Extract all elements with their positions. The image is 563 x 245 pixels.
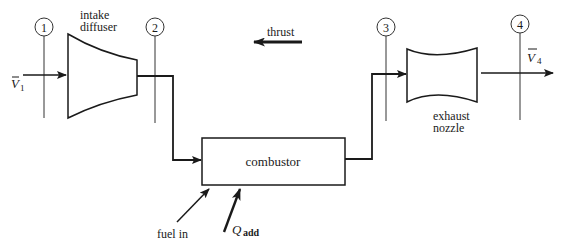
intake-diffuser: intake diffuser (68, 8, 137, 118)
exhaust-nozzle: exhaust nozzle (407, 48, 477, 135)
station-2: 2 (146, 18, 164, 123)
v4-subscript: 4 (537, 56, 542, 66)
q-subscript: add (243, 227, 260, 238)
heat-addition: Q add (224, 189, 260, 238)
nozzle-shape (407, 48, 477, 102)
diffuser-label-line2: diffuser (80, 20, 117, 34)
q-symbol: Q (232, 222, 242, 237)
fuel-label: fuel in (157, 227, 188, 241)
inlet-velocity: V 1 (11, 75, 66, 93)
duct-to-nozzle (345, 74, 406, 159)
engine-diagram: 1 2 3 4 intake diffuser V 1 combustor (0, 0, 563, 245)
station-1-label: 1 (41, 21, 47, 35)
nozzle-label-line2: nozzle (433, 121, 464, 135)
exit-velocity: V 4 (481, 49, 553, 73)
diffuser-shape (68, 34, 137, 118)
combustor-label: combustor (246, 154, 302, 169)
fuel-input: fuel in (157, 189, 209, 241)
v4-symbol: V (527, 50, 537, 65)
station-4-label: 4 (517, 18, 523, 32)
duct-to-combustor (137, 76, 201, 160)
station-3: 3 (377, 18, 395, 121)
thrust: thrust (254, 25, 302, 42)
station-2-label: 2 (152, 21, 158, 35)
station-4: 4 (511, 15, 529, 120)
fuel-arrow-icon (177, 189, 209, 222)
thrust-label: thrust (267, 25, 295, 39)
station-3-label: 3 (383, 21, 389, 35)
combustor: combustor (202, 138, 345, 185)
v1-subscript: 1 (20, 83, 25, 93)
station-1: 1 (35, 18, 53, 118)
